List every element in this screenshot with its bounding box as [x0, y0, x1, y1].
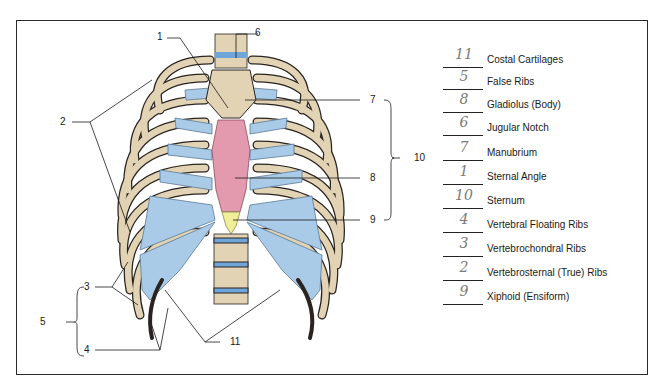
term-label: Vertebrosternal (True) Ribs: [487, 267, 607, 278]
answer-blank[interactable]: [443, 256, 483, 257]
key-row: 5 False Ribs: [443, 74, 653, 92]
handwritten-answer: 3: [449, 235, 479, 251]
key-row: 4 Vertebral Floating Ribs: [443, 217, 653, 235]
handwritten-answer: 9: [449, 283, 479, 299]
handwritten-answer: 1: [449, 163, 479, 179]
term-label: Vertebral Floating Ribs: [487, 219, 588, 230]
callout-4: 4: [84, 345, 90, 355]
answer-blank[interactable]: [443, 135, 483, 136]
callout-8: 8: [370, 173, 376, 183]
term-label: Costal Cartilages: [487, 54, 563, 65]
handwritten-answer: 4: [449, 211, 479, 227]
answer-blank[interactable]: [443, 280, 483, 281]
handwritten-answer: 8: [449, 91, 479, 107]
callout-9: 9: [370, 215, 376, 225]
callout-7: 7: [370, 95, 376, 105]
callout-6: 6: [255, 28, 261, 38]
answer-blank[interactable]: [443, 184, 483, 185]
answer-blank[interactable]: [443, 112, 483, 113]
answer-blank[interactable]: [443, 160, 483, 161]
term-label: Manubrium: [487, 147, 537, 158]
term-label: Sternum: [487, 195, 525, 206]
thoracic-vertebrae: [214, 234, 248, 304]
answer-blank[interactable]: [443, 208, 483, 209]
handwritten-answer: 5: [449, 68, 479, 84]
callout-3: 3: [84, 282, 90, 292]
callout-5: 5: [40, 317, 46, 327]
answer-blank[interactable]: [443, 232, 483, 233]
handwritten-answer: 2: [449, 259, 479, 275]
callout-11: 11: [230, 337, 240, 347]
handwritten-answer: 6: [449, 114, 479, 130]
callout-2: 2: [60, 117, 66, 127]
term-label: False Ribs: [487, 76, 534, 87]
handwritten-answer: 11: [449, 46, 479, 62]
key-row: 1 Sternal Angle: [443, 169, 653, 187]
callout-1: 1: [157, 32, 163, 42]
term-label: Jugular Notch: [487, 122, 549, 133]
handwritten-answer: 7: [449, 139, 479, 155]
xiphoid-process: [222, 212, 240, 234]
term-label: Xiphoid (Ensiform): [487, 291, 569, 302]
key-row: 7 Manubrium: [443, 145, 653, 163]
handwritten-answer: 10: [449, 187, 479, 203]
callout-10: 10: [414, 153, 425, 163]
term-label: Vertebrochondral Ribs: [487, 243, 586, 254]
key-row: 6 Jugular Notch: [443, 120, 653, 138]
cervical-vertebra: [215, 34, 247, 68]
term-label: Sternal Angle: [487, 171, 547, 182]
key-row: 10 Sternum: [443, 193, 653, 211]
key-row: 2 Vertebrosternal (True) Ribs: [443, 265, 653, 283]
key-row: 3 Vertebrochondral Ribs: [443, 241, 653, 259]
key-row: 8 Gladiolus (Body): [443, 97, 653, 115]
answer-blank[interactable]: [443, 304, 483, 305]
key-row: 9 Xiphoid (Ensiform): [443, 289, 653, 307]
manubrium: [206, 70, 256, 118]
answer-blank[interactable]: [443, 89, 483, 90]
term-label: Gladiolus (Body): [487, 99, 561, 110]
gladiolus-body: [212, 120, 250, 212]
